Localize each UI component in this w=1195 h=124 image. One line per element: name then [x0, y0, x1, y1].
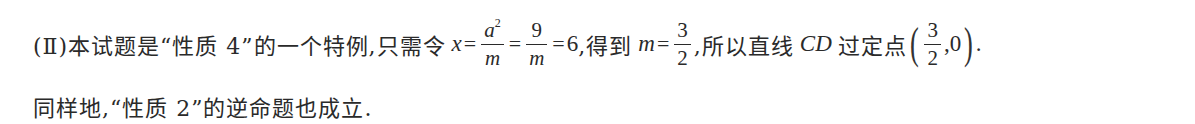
fraction-denominator: m	[482, 48, 503, 69]
fraction-numerator: 3	[924, 20, 941, 41]
equals-sign: =	[552, 31, 564, 57]
fraction-numerator: a2	[481, 19, 504, 41]
fraction-9-over-m: 9 m	[526, 20, 547, 69]
fraction-3-over-2: 3 2	[674, 20, 691, 69]
fraction-bar	[674, 44, 691, 45]
line2-text: 同样地,“性质 2”的逆命题也成立.	[33, 90, 372, 122]
point-y: 0	[950, 31, 962, 57]
fraction-a2-over-m: a2 m	[481, 19, 504, 69]
fraction-bar	[924, 44, 941, 45]
mid-text: ,得到	[578, 28, 632, 60]
line1-prefix: (Ⅱ)本试题是“性质 4”的一个特例,只需令	[33, 28, 446, 60]
line-name-cd: CD	[800, 31, 832, 57]
fraction-denominator: 2	[924, 48, 941, 69]
point-x-fraction: 3 2	[924, 20, 941, 69]
fraction-denominator: 2	[674, 48, 691, 69]
right-paren: )	[964, 22, 973, 66]
fixed-point-text: 过定点	[838, 28, 907, 60]
equals-sign: =	[657, 31, 669, 57]
value-6: 6	[567, 31, 579, 57]
fraction-denominator: m	[526, 48, 547, 69]
period: .	[976, 31, 982, 57]
solution-line-1: (Ⅱ)本试题是“性质 4”的一个特例,只需令 x = a2 m = 9 m = …	[33, 14, 982, 74]
fraction-numerator: 3	[674, 20, 691, 41]
after-text: ,所以直线	[694, 28, 794, 60]
fraction-bar	[481, 44, 504, 45]
solution-line-2: 同样地,“性质 2”的逆命题也成立.	[33, 92, 372, 120]
equals-sign: =	[464, 31, 476, 57]
left-paren: (	[910, 22, 919, 66]
fraction-numerator: 9	[529, 20, 546, 41]
fraction-bar	[526, 44, 547, 45]
variable-m: m	[638, 31, 655, 57]
equals-sign: =	[509, 31, 521, 57]
variable-x: x	[452, 31, 462, 57]
